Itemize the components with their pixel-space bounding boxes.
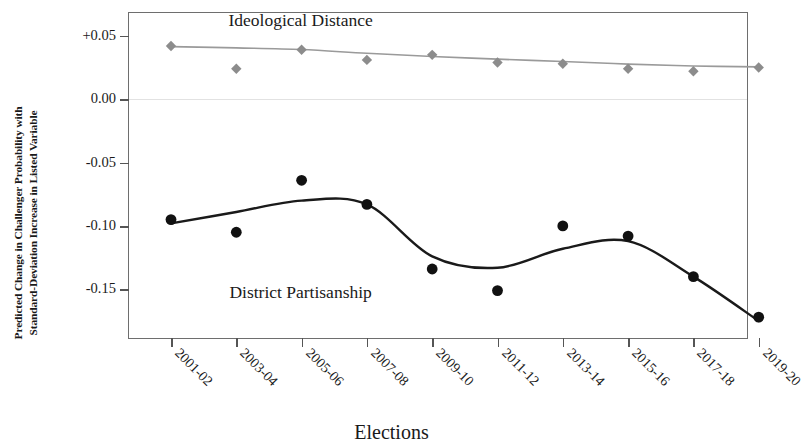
x-axis-tick-label: 2017-18: [694, 345, 738, 389]
x-axis-tick-label: 2011-12: [498, 345, 542, 389]
x-axis-tick-label: 2019-20: [759, 345, 803, 389]
x-axis-tick-label: 2005-06: [302, 345, 346, 389]
x-axis-tick-label: 2009-10: [433, 345, 477, 389]
x-axis-tick-label: 2001-02: [171, 345, 215, 389]
x-axis-title: Elections: [0, 421, 783, 444]
x-axis-tick-label: 2007-08: [367, 345, 411, 389]
x-axis-tick-label: 2003-04: [237, 345, 281, 389]
series-annotation-label: Ideological Distance: [228, 9, 372, 30]
series-annotation-label: District Partisanship: [229, 282, 371, 303]
x-axis-tick-label: 2015-16: [628, 345, 672, 389]
x-axis-tick-label: 2013-14: [563, 345, 607, 389]
